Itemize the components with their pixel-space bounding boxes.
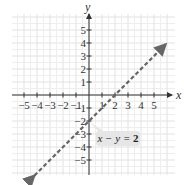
y-tick-label: 2 xyxy=(81,63,87,75)
x-axis-label: x xyxy=(175,88,182,102)
y-tick-label: −5 xyxy=(74,154,86,166)
x-tick-label: −2 xyxy=(57,99,69,111)
y-tick-label: −1 xyxy=(74,102,86,114)
y-tick-label: −2 xyxy=(74,115,86,127)
x-tick-label: 5 xyxy=(151,99,157,111)
y-tick-label: −4 xyxy=(74,141,86,153)
x-tick-label: 3 xyxy=(125,99,131,111)
x-tick-label: 4 xyxy=(138,99,144,111)
y-tick-label: 5 xyxy=(81,24,87,36)
coordinate-plane: xy −5−4−3−2−11234554321−1−2−3−4−5 x − y … xyxy=(0,0,184,185)
y-axis-label: y xyxy=(84,0,91,14)
x-tick-label: −3 xyxy=(44,99,56,111)
graph: xy −5−4−3−2−11234554321−1−2−3−4−5 x − y … xyxy=(0,0,184,185)
y-tick-label: 1 xyxy=(81,76,87,88)
x-tick-label: −5 xyxy=(18,99,30,111)
equation-text: x − y = 2 xyxy=(96,132,139,144)
y-tick-label: 3 xyxy=(81,50,87,62)
x-tick-label: 2 xyxy=(112,99,118,111)
y-tick-label: 4 xyxy=(81,37,87,49)
x-tick-label: −4 xyxy=(31,99,43,111)
